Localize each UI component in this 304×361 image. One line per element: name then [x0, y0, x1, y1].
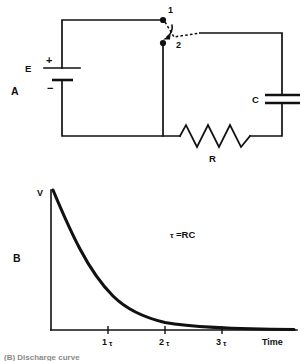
- tau-symbol: τ: [170, 231, 174, 240]
- x-tick-label-2tau: 2 τ: [159, 337, 170, 348]
- capacitor-label: C: [252, 94, 259, 105]
- caption-partial: (B) Discharge curve: [4, 354, 194, 361]
- switch-contact-2-dot[interactable]: [160, 40, 166, 46]
- equals-rc-text: =RC: [176, 229, 195, 240]
- resistor-zigzag: [180, 125, 250, 147]
- switch-motion-arrowhead: [163, 35, 171, 40]
- x-tick-label-1tau: 1 τ: [102, 337, 113, 348]
- battery-label: E: [25, 63, 31, 74]
- panel-b-label: B: [13, 252, 21, 264]
- wire-top-left: [62, 20, 163, 68]
- decay-curve: [53, 190, 294, 330]
- x-tick-label-2tau-number: 2: [159, 337, 164, 347]
- switch-contact-1-label: 1: [168, 5, 173, 15]
- panel-b-chart: B V 1 τ 2 τ 3 τ: [13, 188, 297, 348]
- x-tick-label-3tau-number: 3: [216, 337, 221, 347]
- wire-top-right: [200, 33, 282, 95]
- panel-a-circuit: A E + − 1 2: [11, 5, 300, 164]
- tau-equals-rc-annotation: τ =RC: [170, 229, 195, 240]
- wire-bottom-right: [250, 103, 282, 136]
- y-axis-label: V: [37, 188, 43, 198]
- x-tick-label-2tau-tau: τ: [166, 339, 170, 348]
- resistor-label: R: [209, 153, 216, 164]
- x-tick-label-3tau-tau: τ: [223, 339, 227, 348]
- x-axis-label: Time: [262, 337, 283, 347]
- panel-a-label: A: [11, 85, 19, 97]
- x-tick-label-3tau: 3 τ: [216, 337, 227, 348]
- battery-minus-sign: −: [47, 82, 53, 94]
- switch-contact-2-label: 2: [176, 40, 181, 50]
- battery-plus-sign: +: [46, 54, 52, 66]
- x-tick-label-1tau-number: 1: [102, 337, 107, 347]
- x-tick-label-1tau-tau: τ: [109, 339, 113, 348]
